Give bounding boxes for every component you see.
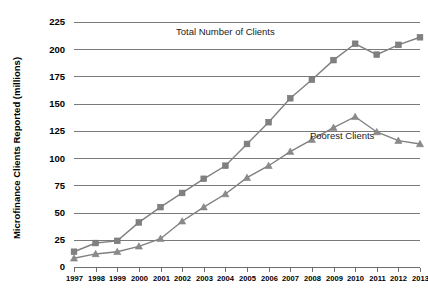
x-axis-tick-label: 2000 (131, 274, 148, 283)
x-axis-tick-label: 2008 (304, 274, 321, 283)
line-chart: 0255075100125150175200225 19971998199920… (0, 0, 428, 296)
data-point-marker (309, 77, 315, 83)
x-axis-tick-label: 1999 (109, 274, 126, 283)
x-axis-tick-label: 2001 (153, 274, 171, 283)
data-point-marker (265, 162, 272, 168)
x-axis-tick-label: 2013 (412, 274, 428, 283)
x-axis-tick-label: 1998 (88, 274, 105, 283)
data-point-marker (266, 119, 272, 125)
y-axis-tick-label: 0 (60, 261, 65, 272)
y-axis-tick-label: 100 (49, 153, 65, 164)
data-point-marker (417, 34, 423, 40)
data-point-marker (352, 41, 358, 47)
data-point-marker (331, 57, 337, 63)
x-axis-tick-label: 2010 (347, 274, 364, 283)
x-axis-tick-label: 2002 (174, 274, 191, 283)
data-point-marker (136, 219, 142, 225)
x-axis-tick-label: 2012 (390, 274, 407, 283)
data-point-marker (244, 141, 250, 147)
data-point-marker (179, 190, 185, 196)
series-annotation-label: Total Number of Clients (176, 26, 275, 37)
data-point-marker (243, 174, 250, 180)
series-group (70, 34, 423, 261)
y-axis-tick-labels: 0255075100125150175200225 (49, 16, 66, 272)
series-annotation-label: Poorest Clients (310, 130, 375, 141)
data-point-marker (287, 148, 294, 154)
data-point-marker (395, 42, 401, 48)
x-axis-tick-marks (75, 268, 421, 272)
y-axis-tick-label: 225 (49, 16, 66, 27)
x-axis-tick-label: 2011 (369, 274, 386, 283)
y-axis-tick-label: 125 (49, 125, 66, 136)
data-point-marker (200, 204, 207, 210)
x-axis-group: 1997199819992000200120022003200420052006… (66, 268, 428, 284)
y-axis-tick-label: 75 (54, 180, 65, 191)
x-axis-tick-label: 2006 (261, 274, 278, 283)
data-point-marker (222, 163, 228, 169)
y-axis-tick-label: 200 (49, 44, 65, 55)
x-axis-tick-label: 2009 (326, 274, 343, 283)
x-axis-tick-labels: 1997199819992000200120022003200420052006… (66, 274, 428, 283)
chart-container: 0255075100125150175200225 19971998199920… (0, 0, 428, 296)
x-axis-tick-label: 1997 (66, 274, 83, 283)
x-axis-tick-label: 2003 (196, 274, 213, 283)
x-axis-tick-label: 2004 (217, 274, 235, 283)
data-point-marker (201, 176, 207, 182)
x-axis-tick-label: 2005 (239, 274, 257, 283)
series-annotations: Total Number of ClientsPoorest Clients (176, 26, 375, 140)
y-axis-tick-label: 50 (54, 207, 65, 218)
y-axis-tick-label: 175 (49, 71, 66, 82)
x-axis-tick-label: 2007 (282, 274, 299, 283)
data-point-marker (114, 238, 120, 244)
data-point-marker (352, 113, 359, 119)
y-axis-title: Microfinance Clients Reported (millions) (11, 57, 22, 239)
data-point-marker (374, 52, 380, 58)
data-point-marker (158, 204, 164, 210)
data-point-marker (71, 249, 77, 255)
y-axis-tick-label: 150 (49, 98, 65, 109)
data-point-marker (179, 218, 186, 224)
data-point-marker (287, 95, 293, 101)
data-series (71, 34, 423, 254)
y-axis-tick-label: 25 (54, 234, 65, 245)
data-point-marker (93, 240, 99, 246)
